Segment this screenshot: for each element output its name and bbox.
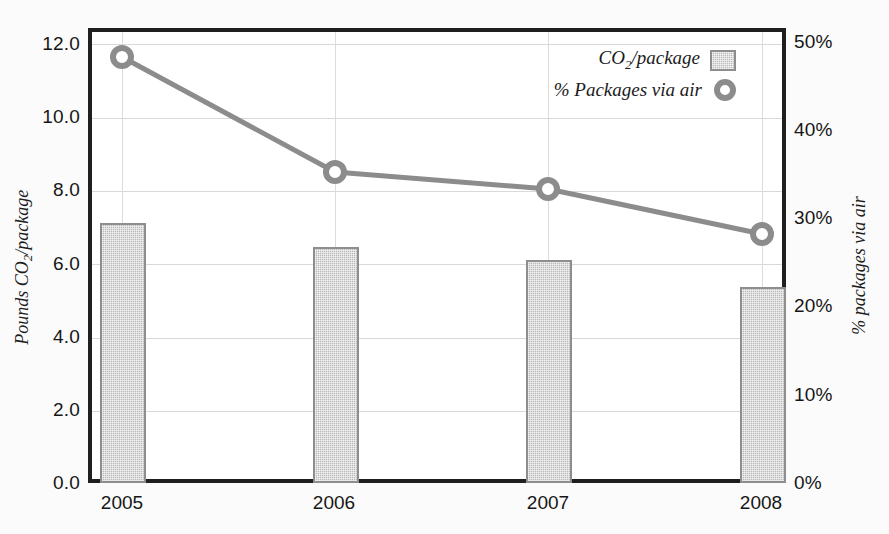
legend-label-packages-via-air: % Packages via air bbox=[554, 79, 702, 101]
legend-item-co2-package[interactable]: CO2/package bbox=[474, 47, 736, 73]
left-axis-title-subscript: 2 bbox=[20, 255, 35, 262]
left-axis-title-main: Pounds CO bbox=[12, 261, 32, 345]
left-tick-10: 10.0 bbox=[10, 106, 80, 128]
gridline-h-2 bbox=[92, 411, 782, 412]
bar-2008[interactable] bbox=[740, 287, 786, 483]
gridline-h-10 bbox=[92, 118, 782, 119]
left-tick-12: 12.0 bbox=[10, 33, 80, 55]
plot-inner: CO2/package % Packages via air bbox=[92, 32, 782, 479]
x-tick-2007: 2007 bbox=[527, 492, 569, 514]
left-axis-title-tail: /package bbox=[12, 190, 32, 255]
legend-swatch-circle-marker-icon bbox=[714, 79, 736, 101]
gridline-h-6 bbox=[92, 264, 782, 265]
right-tick-10: 10% bbox=[794, 384, 864, 406]
right-tick-40: 40% bbox=[794, 119, 864, 141]
chart-legend: CO2/package % Packages via air bbox=[474, 47, 736, 107]
gridline-h-12 bbox=[92, 44, 782, 45]
legend-label-co2-tail: /package bbox=[631, 47, 700, 68]
legend-item-packages-via-air[interactable]: % Packages via air bbox=[474, 77, 736, 103]
legend-swatch-bar-icon bbox=[710, 50, 736, 71]
bar-2007[interactable] bbox=[526, 260, 572, 483]
x-tick-2006: 2006 bbox=[313, 492, 355, 514]
right-tick-50: 50% bbox=[794, 31, 864, 53]
plot-area: CO2/package % Packages via air bbox=[88, 28, 786, 483]
chart-figure: 12.0 10.0 8.0 6.0 4.0 2.0 0.0 50% 40% 30… bbox=[0, 0, 889, 534]
bar-2005[interactable] bbox=[100, 223, 146, 483]
legend-label-co2-package: CO2/package bbox=[599, 47, 700, 73]
right-axis-title: % packages via air bbox=[849, 146, 870, 386]
legend-label-co2-main: CO bbox=[599, 47, 625, 68]
bar-2006[interactable] bbox=[313, 247, 359, 483]
left-tick-0: 0.0 bbox=[10, 472, 80, 494]
left-axis-title: Pounds CO2/package bbox=[12, 147, 37, 387]
x-tick-2005: 2005 bbox=[101, 492, 143, 514]
left-tick-2: 2.0 bbox=[10, 399, 80, 421]
gridline-h-4 bbox=[92, 338, 782, 339]
right-tick-0: 0% bbox=[794, 472, 864, 494]
gridline-h-8 bbox=[92, 191, 782, 192]
x-tick-2008: 2008 bbox=[740, 492, 782, 514]
